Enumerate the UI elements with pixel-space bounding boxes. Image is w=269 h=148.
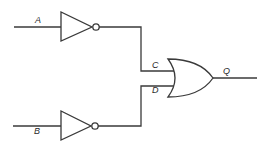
inverter-bubble-a — [93, 24, 99, 30]
or-gate — [168, 59, 213, 97]
label-input-a: A — [35, 16, 41, 25]
label-input-b: B — [34, 127, 40, 136]
wire-c — [99, 27, 174, 71]
label-node-d: D — [152, 86, 159, 95]
not-gate-a — [61, 12, 92, 41]
inverter-bubble-b — [92, 123, 98, 129]
label-node-c: C — [152, 61, 159, 70]
label-output-q: Q — [223, 67, 230, 76]
not-gate-b — [61, 111, 91, 140]
wire-d — [98, 86, 174, 126]
